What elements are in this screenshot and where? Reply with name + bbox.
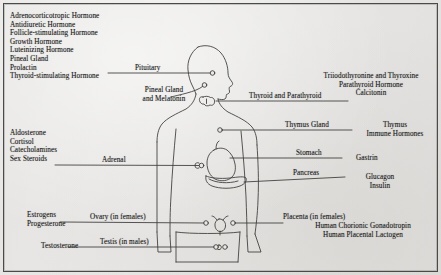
adrenal-leader [55, 165, 199, 166]
pituitary-hormone-item: Luteinizing Hormone [10, 46, 99, 55]
pituitary-hormone-item: Pineal Gland [10, 55, 99, 64]
thymus-hormone-list: Thymus Immune Hormones [352, 121, 438, 138]
thyroid-hormone-item: Calcitonin [303, 89, 439, 98]
stomach-shape [207, 148, 235, 181]
adrenal-hormone-item: Sex Steroids [10, 155, 57, 164]
pituitary-hormone-item: Antidiuretic Hormone [10, 21, 99, 30]
ovary-hormone-item: Estrogens [27, 211, 65, 220]
thyroid-hormone-list: Triiodothyronine and Thyroxine Parathyro… [303, 72, 439, 98]
endocrine-system-figure: Adrenocorticotropic Hormone Antidiuretic… [0, 0, 441, 275]
organ-label-stomach: Stomach [296, 149, 322, 158]
placenta-hormone-item: Human Placental Lactogen [288, 231, 438, 240]
fallopian-left [212, 216, 217, 220]
right-shoulder [218, 99, 257, 145]
pancreas-leader [244, 177, 345, 182]
adrenal-hormone-list: Aldosterone Cortisol Catecholamines Sex … [10, 129, 57, 163]
right-hand [247, 234, 261, 252]
pituitary-hormone-item: Adrenocorticotropic Hormone [10, 12, 99, 21]
thyroid-gland-shape [199, 96, 214, 106]
right-leg-outer [238, 232, 240, 262]
testis-hormone-item: Testosterone [41, 242, 78, 251]
organ-label-pineal-line2: and Melatonin [133, 95, 195, 104]
organ-label-testis: Testis (in males) [100, 238, 149, 247]
ovary-hormone-list: Estrogens Progesterone [27, 211, 65, 228]
pituitary-marker [210, 71, 215, 76]
hip-line [176, 232, 240, 234]
pituitary-hormone-item: Follicle-stimulating Hormone [10, 29, 99, 38]
adrenal-hormone-item: Aldosterone [10, 129, 57, 138]
pancreas-hormone-item: Insulin [352, 182, 408, 191]
pituitary-hormone-item: Thyroid-stimulating Hormone [10, 72, 99, 81]
pancreas-hormone-list: Glucagon Insulin [352, 173, 408, 190]
uterus-shape [215, 219, 226, 232]
stomach-hormone-item: Gastrin [356, 154, 378, 163]
pancreas-hormone-item: Glucagon [352, 173, 408, 182]
adrenal-hormone-item: Catecholamines [10, 146, 57, 155]
adrenal-marker [199, 163, 204, 168]
stomach-hormone-list: Gastrin [356, 154, 378, 163]
pancreas-shape [206, 176, 247, 188]
adrenal-hormone-item: Cortisol [10, 138, 57, 147]
testis-marker-right [223, 245, 228, 250]
fallopian-right [223, 216, 228, 220]
ovary-hormone-item: Progesterone [27, 220, 65, 229]
organ-label-adrenal: Adrenal [102, 156, 126, 165]
testis-hormone-list: Testosterone [41, 242, 78, 251]
placenta-hormone-list: Human Chorionic Gonadotropin Human Place… [288, 222, 438, 239]
pituitary-hormone-item: Prolactin [10, 64, 99, 73]
organ-label-ovary: Ovary (in females) [90, 213, 146, 222]
left-hand [157, 232, 171, 252]
thymus-hormone-item: Thymus [352, 121, 438, 130]
organ-label-thymus: Thymus Gland [285, 121, 329, 130]
left-arm-inner [170, 129, 176, 236]
organ-label-pineal: Pineal Gland and Melatonin [133, 86, 195, 103]
organ-label-pancreas: Pancreas [293, 169, 319, 178]
thymus-hormone-item: Immune Hormones [352, 130, 438, 139]
organ-label-placenta: Placenta (in females) [283, 213, 345, 222]
thyroid-hormone-item: Triiodothyronine and Thyroxine [303, 72, 439, 81]
organ-label-pineal-line1: Pineal Gland [133, 86, 195, 95]
thyroid-hormone-item: Parathyroid Hormone [303, 81, 439, 90]
ovary-leader [60, 222, 204, 223]
organ-label-pituitary: Pituitary [135, 64, 160, 73]
pituitary-hormone-list: Adrenocorticotropic Hormone Antidiuretic… [10, 12, 99, 81]
placenta-hormone-item: Human Chorionic Gonadotropin [288, 222, 438, 231]
